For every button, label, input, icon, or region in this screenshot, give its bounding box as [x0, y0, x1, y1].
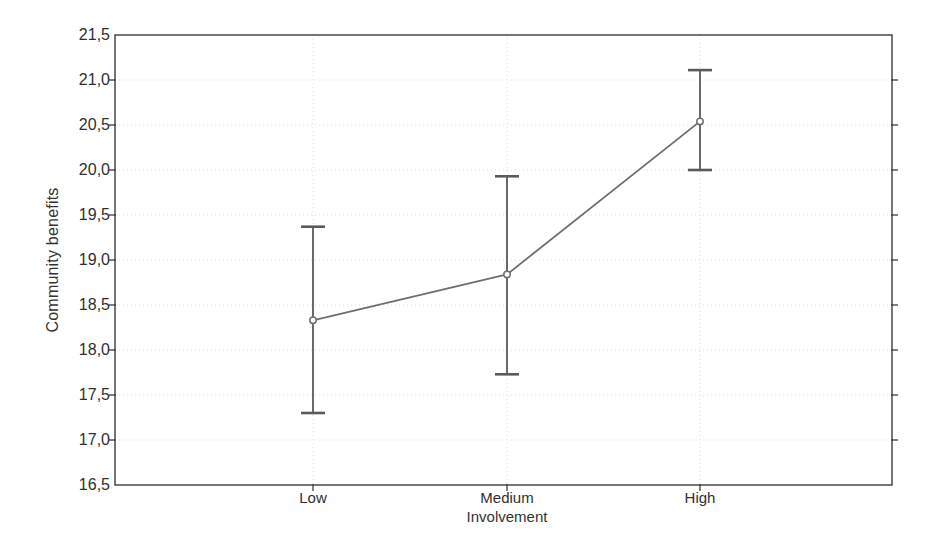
y-axis-tick-label: 18,5	[48, 296, 110, 314]
gridlines	[115, 35, 892, 485]
y-axis-tick-label: 17,5	[48, 386, 110, 404]
y-axis-tick-label: 19,5	[48, 206, 110, 224]
plot-area	[0, 0, 936, 553]
y-axis-tick-label: 19,0	[48, 251, 110, 269]
y-axis-tick-label: 21,5	[48, 26, 110, 44]
y-axis-tick-label: 17,0	[48, 431, 110, 449]
y-axis-tick-label: 20,0	[48, 161, 110, 179]
x-axis-tick-label: High	[620, 489, 780, 506]
y-axis-tick-label: 16,5	[48, 476, 110, 494]
y-axis-tick-label: 20,5	[48, 116, 110, 134]
y-axis-tick-label: 18,0	[48, 341, 110, 359]
data-point-marker	[310, 317, 316, 323]
error-bars	[301, 70, 712, 413]
data-point-marker	[697, 118, 703, 124]
error-bar-chart: Community benefits Involvement 21,521,02…	[0, 0, 936, 553]
data-point-marker	[504, 271, 510, 277]
x-axis-title: Involvement	[407, 508, 607, 525]
axis-ticks	[109, 80, 898, 491]
x-axis-tick-label: Medium	[427, 489, 587, 506]
x-axis-tick-label: Low	[233, 489, 393, 506]
y-axis-tick-label: 21,0	[48, 71, 110, 89]
